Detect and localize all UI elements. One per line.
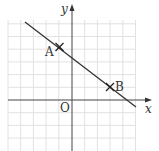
y-axis-arrow-icon (70, 4, 75, 11)
x-axis-label: x (145, 102, 152, 116)
x-axis (8, 98, 152, 103)
point-B-label: B (115, 80, 124, 94)
point-A-label: A (44, 45, 54, 59)
origin-label: O (60, 101, 70, 115)
line-AB (25, 22, 136, 107)
coordinate-diagram: A B O x y (0, 0, 159, 151)
y-axis (70, 4, 75, 151)
y-axis-label: y (60, 2, 68, 16)
